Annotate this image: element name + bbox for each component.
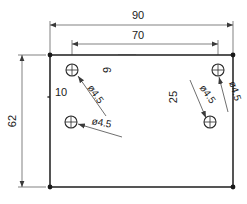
corner-dot-bottom-right [231,185,236,190]
dimension-label-top-hole-edge-offset: 9 [101,67,113,73]
dimension-label-hole-span-width: 70 [132,29,144,41]
technical-drawing-canvas: 90 70 62 9 10 25 ø4.5 ø4.5 ø4.5 ø4.5 [0,0,247,204]
dimension-label-right-hole-vertical-spacing: 25 [167,91,179,103]
drawing-svg: 90 70 62 9 10 25 ø4.5 ø4.5 ø4.5 ø4.5 [0,0,247,204]
dimension-label-overall-width: 90 [132,9,144,21]
dimension-label-overall-height: 62 [6,115,18,127]
corner-dot-bottom-left [48,185,53,190]
dimension-label-left-hole-edge-offset: 10 [55,86,67,98]
corner-dot-top-right [231,53,236,58]
corner-dot-top-left [48,53,53,58]
